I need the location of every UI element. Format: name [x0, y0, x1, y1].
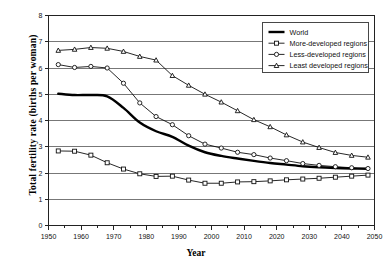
data-point-marker: [121, 49, 126, 53]
x-tick-label: 2010: [236, 233, 252, 240]
data-point-marker: [366, 155, 371, 159]
data-point-marker: [284, 133, 289, 137]
data-point-marker: [317, 176, 321, 180]
data-point-marker: [56, 149, 60, 153]
data-point-marker: [268, 124, 273, 128]
data-point-marker: [333, 165, 337, 169]
data-point-marker: [138, 101, 142, 105]
data-point-marker: [138, 172, 142, 176]
data-point-marker: [154, 114, 158, 118]
data-point-marker: [301, 161, 305, 165]
data-point-marker: [187, 134, 191, 138]
data-point-marker: [350, 166, 354, 170]
legend-label: Least developed regions: [290, 61, 369, 70]
x-tick-label: 1990: [171, 233, 187, 240]
data-point-marker: [203, 142, 207, 146]
y-tick-label: 7: [39, 38, 43, 45]
data-point-marker: [73, 149, 77, 153]
data-point-marker: [203, 92, 208, 96]
data-point-marker: [72, 65, 76, 69]
data-point-marker: [366, 173, 370, 177]
data-point-marker: [219, 100, 224, 104]
data-point-marker: [252, 117, 257, 121]
series-world: [58, 94, 368, 169]
data-point-marker: [349, 153, 354, 157]
data-point-marker: [350, 174, 354, 178]
data-point-marker: [187, 178, 191, 182]
x-axis-ticks: 1950196019701980199020002010202020302040…: [41, 226, 383, 240]
y-tick-label: 1: [39, 196, 43, 203]
data-point-marker: [317, 145, 322, 149]
x-tick-label: 2040: [334, 233, 350, 240]
data-point-marker: [300, 140, 305, 144]
data-point-marker: [268, 156, 272, 160]
data-point-marker: [170, 123, 174, 127]
data-point-marker: [284, 178, 288, 182]
data-point-marker: [89, 45, 94, 49]
data-point-marker: [105, 161, 109, 165]
data-point-marker: [275, 41, 279, 45]
chart-legend: WorldMore-developed regionsLess-develope…: [263, 23, 369, 73]
legend-label: World: [290, 28, 309, 37]
data-point-marker: [284, 159, 288, 163]
series-line: [58, 65, 368, 169]
x-tick-label: 1950: [41, 233, 57, 240]
data-point-marker: [366, 166, 370, 170]
x-tick-label: 2030: [302, 233, 318, 240]
data-point-marker: [236, 180, 240, 184]
data-point-marker: [154, 58, 159, 62]
y-tick-label: 5: [39, 91, 43, 98]
data-point-marker: [56, 62, 60, 66]
y-tick-label: 4: [39, 117, 43, 124]
y-tick-label: 8: [39, 12, 43, 19]
data-point-marker: [203, 181, 207, 185]
y-tick-label: 2: [39, 170, 43, 177]
data-point-marker: [235, 150, 239, 154]
data-point-marker: [89, 153, 93, 157]
chart-figure: Total fertility rate (births per woman) …: [0, 0, 392, 266]
data-point-marker: [121, 167, 125, 171]
legend-label: More-developed regions: [290, 39, 368, 48]
data-point-marker: [301, 177, 305, 181]
y-tick-label: 6: [39, 65, 43, 72]
series-line: [58, 94, 368, 169]
x-tick-label: 2000: [204, 233, 220, 240]
data-point-marker: [72, 47, 77, 51]
y-tick-label: 0: [39, 222, 43, 229]
data-point-marker: [170, 174, 174, 178]
data-point-marker: [105, 66, 109, 70]
data-point-marker: [252, 153, 256, 157]
x-tick-label: 1970: [106, 233, 122, 240]
data-point-marker: [274, 52, 278, 56]
chart-canvas: 012345678 195019601970198019902000201020…: [0, 0, 392, 266]
x-axis-title: Year: [0, 248, 392, 258]
data-point-marker: [154, 174, 158, 178]
y-tick-label: 3: [39, 143, 43, 150]
data-point-marker: [105, 46, 110, 50]
data-point-marker: [186, 83, 191, 87]
data-point-marker: [121, 81, 125, 85]
data-point-marker: [219, 146, 223, 150]
data-point-marker: [89, 64, 93, 68]
data-point-marker: [333, 175, 337, 179]
data-point-marker: [235, 108, 240, 112]
data-point-marker: [137, 54, 142, 58]
x-tick-label: 1960: [73, 233, 89, 240]
data-point-marker: [268, 179, 272, 183]
x-tick-label: 2050: [367, 233, 383, 240]
x-tick-label: 1980: [139, 233, 155, 240]
data-point-marker: [333, 150, 338, 154]
legend-label: Less-developed regions: [290, 50, 367, 59]
data-point-marker: [219, 181, 223, 185]
data-point-marker: [56, 48, 61, 52]
data-point-marker: [317, 163, 321, 167]
y-axis-ticks: 012345678: [39, 12, 49, 229]
data-point-marker: [252, 180, 256, 184]
x-tick-label: 2020: [269, 233, 285, 240]
